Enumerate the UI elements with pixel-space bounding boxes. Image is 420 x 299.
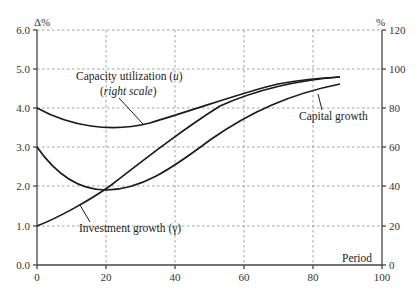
y-right-unit: % <box>376 16 385 28</box>
capacity-utilization-label: Capacity utilization (u) <box>76 70 183 83</box>
right-scale-label: (right scale) <box>100 85 157 98</box>
investment-growth-label: Investment growth (γ) <box>79 222 181 235</box>
svg-text:20: 20 <box>101 271 113 283</box>
svg-text:0: 0 <box>389 259 395 271</box>
capital-growth-curve <box>37 84 340 190</box>
capacity-leader <box>119 98 143 124</box>
svg-text:80: 80 <box>308 271 320 283</box>
svg-text:1.0: 1.0 <box>16 220 30 232</box>
svg-text:120: 120 <box>389 24 406 36</box>
svg-text:40: 40 <box>389 180 401 192</box>
svg-text:80: 80 <box>389 102 401 114</box>
svg-text:100: 100 <box>374 271 391 283</box>
capital-growth-label: Capital growth <box>299 110 368 123</box>
svg-text:6.0: 6.0 <box>16 24 30 36</box>
capacity-utilization-curve <box>37 77 340 128</box>
svg-text:100: 100 <box>389 63 406 75</box>
y-left-unit: Δ% <box>34 16 50 28</box>
svg-text:3.0: 3.0 <box>16 141 30 153</box>
svg-text:5.0: 5.0 <box>16 63 30 75</box>
svg-text:40: 40 <box>170 271 182 283</box>
x-axis-label: Period <box>342 252 372 264</box>
svg-text:0.0: 0.0 <box>16 259 30 271</box>
svg-text:20: 20 <box>389 220 401 232</box>
svg-text:60: 60 <box>389 141 401 153</box>
svg-text:2.0: 2.0 <box>16 180 30 192</box>
svg-text:60: 60 <box>239 271 251 283</box>
svg-text:4.0: 4.0 <box>16 102 30 114</box>
chart: 6.0 5.0 4.0 3.0 2.0 1.0 0.0 Δ% 120 100 8… <box>0 0 420 299</box>
x-ticks: 0 20 40 60 80 100 <box>34 265 391 283</box>
y-left-ticks: 6.0 5.0 4.0 3.0 2.0 1.0 0.0 Δ% <box>16 16 50 271</box>
investment-growth-leader <box>80 205 90 222</box>
investment-growth-curve <box>37 77 340 226</box>
svg-text:0: 0 <box>34 271 40 283</box>
y-right-ticks: 120 100 80 60 40 20 0 % <box>376 16 406 271</box>
